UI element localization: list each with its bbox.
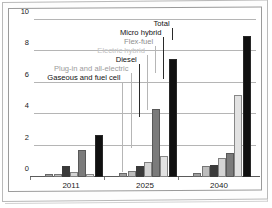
bar xyxy=(169,59,177,177)
bar xyxy=(128,171,136,177)
chart-figure: 0246810 201120252040 TotalMicro hybridFl… xyxy=(0,0,272,208)
bar xyxy=(202,166,210,177)
x-axis-tickmark xyxy=(104,177,105,180)
bar-group-2040 xyxy=(182,20,256,177)
bar xyxy=(54,174,62,177)
y-axis-tick-label: 6 xyxy=(25,69,29,78)
bar xyxy=(193,173,201,177)
bar xyxy=(218,158,226,177)
bar xyxy=(152,109,160,177)
bar-group-2025 xyxy=(108,20,182,177)
bar-group-2011 xyxy=(34,20,108,177)
bar xyxy=(62,166,70,177)
bar xyxy=(243,36,251,177)
y-axis-tick-label: 8 xyxy=(25,38,29,47)
bar xyxy=(119,173,127,177)
x-axis-tickmark xyxy=(178,177,179,180)
bar xyxy=(136,166,144,177)
bar xyxy=(45,174,53,177)
bar xyxy=(160,156,168,177)
bar xyxy=(95,135,103,177)
x-axis-tickmark xyxy=(30,177,31,180)
plot-area: 0246810 201120252040 xyxy=(34,20,256,177)
y-axis-tick-label: 10 xyxy=(21,7,29,16)
bar xyxy=(226,153,234,177)
y-axis-tick-label: 4 xyxy=(25,101,29,110)
x-axis-label-2011: 2011 xyxy=(62,181,79,190)
x-axis-label-2040: 2040 xyxy=(210,181,228,190)
x-axis-label-2025: 2025 xyxy=(136,181,154,190)
y-axis-tick-label: 0 xyxy=(25,164,29,173)
bar xyxy=(210,165,218,177)
bar xyxy=(234,95,242,177)
bar xyxy=(78,150,86,177)
bar xyxy=(144,162,152,177)
bar xyxy=(86,174,94,177)
bar xyxy=(70,172,78,177)
y-axis-tick-label: 2 xyxy=(25,132,29,141)
